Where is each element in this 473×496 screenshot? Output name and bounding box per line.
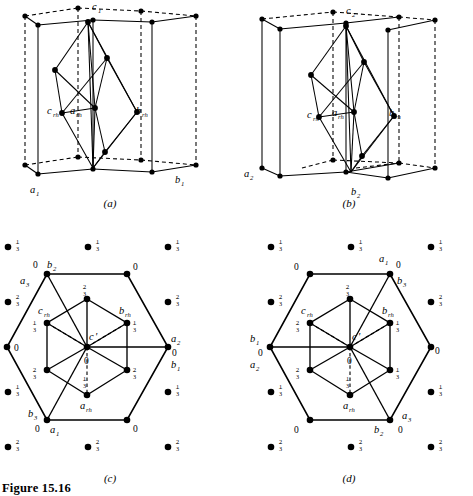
label-d-b1-sub: 1 [256,339,259,346]
label-c2-sub: 2 [352,11,356,18]
frac-d-5: 1–3 [278,383,283,397]
height-c-right: 0 [172,348,177,358]
inner-height-d-ll: 2–3 [295,366,300,380]
label-c-a2-base: a [171,333,176,344]
label-c-a3-sub: 3 [25,281,30,288]
label-d-a3-base: a [402,410,407,421]
inner-height-c-ul: 1–3 [32,319,37,333]
label-brh-base-a: b [136,105,141,116]
vertex-dots-a [22,5,198,176]
inner-height-d-top: 2–3 [345,283,350,297]
label-b2-base: b [351,186,356,197]
label-arh-base-a: a [70,105,75,116]
label-a1-sub: 1 [36,190,39,197]
label-d-b2-sub: 2 [380,430,384,437]
label-c-crh-sub: rh [44,311,50,318]
label-c1-base: c [92,1,97,12]
hidden-prism-edges-a [25,8,196,165]
inner-hexagon-d [270,274,390,420]
label-b1-sub: 1 [181,180,184,187]
panel-d-projection-reverse: 1–3 1–3 1–3 2–3 2–3 1–3 1–3 2–3 2–3 2–3 … [236,232,473,482]
label-d-b1-base: b [250,333,255,344]
label-c2-base: c [346,5,351,16]
label-c-a2-sub: 2 [177,339,181,346]
frac-c-6: 1–3 [175,383,180,397]
label-a2-sub: 2 [250,174,254,181]
rhombohedron-edges-b [311,26,394,172]
height-d-bl: 0 [294,425,299,435]
label-brh-sub-b: rh [395,113,401,120]
figure-caption: Figure 15.16 [2,481,71,496]
panel-b-drawing: c 2 a 2 b 2 a rh b rh c rh [236,0,473,212]
label-c1-sub: 1 [98,7,101,14]
inner-height-c-top: 2–3 [82,283,87,297]
label-brh-base-b: b [389,107,394,118]
panel-c-drawing: 1–3 1–3 1–3 2–3 2–3 1–3 1–3 2–3 2–3 2–3 … [0,232,236,482]
frac-c-0: 1–3 [15,238,20,252]
inner-height-c-bottom: 1–3 [82,375,87,389]
label-d-b3-base: b [397,275,402,286]
label-crh-base-b: c [307,109,312,120]
label-d-b2-base: b [374,424,379,435]
frac-c-2: 1–3 [175,238,180,252]
label-d-crh-base: c [301,305,306,316]
label-c-b1-sub: 1 [177,365,180,372]
label-d-a2-sub: 2 [256,365,260,372]
inner-hexagon-c [47,274,168,420]
label-c-a3-base: a [20,275,25,286]
label-d-a3-sub: 3 [407,416,412,423]
panel-a-drawing: c 1 a 1 b 1 a rh b rh c rh [0,0,236,212]
label-c-brh-base: b [119,305,124,316]
label-c-a1-base: a [50,424,55,435]
height-d-right: 0 [435,346,440,356]
frac-d-2: 1–3 [438,238,443,252]
panel-a-hexagonal-rhombohedral-obverse: c 1 a 1 b 1 a rh b rh c rh (a) [0,0,236,212]
label-d-brh-sub: rh [388,311,394,318]
inner-height-c-lr: 2–3 [132,366,137,380]
height-c-b2: 0 [33,260,38,270]
label-c-b3-base: b [28,408,33,419]
label-c-arh-base: a [80,400,85,411]
height-d-a3: 0 [398,425,403,435]
label-d-cprime: c [352,331,357,342]
label-b1-base: b [175,174,180,185]
label-c-a1-sub: 1 [56,430,59,437]
height-c-left: 0 [14,343,19,353]
label-d-arh-sub: rh [349,406,355,413]
label-a2-base: a [244,168,249,179]
label-c-b1-base: b [171,359,176,370]
label-crh-sub-b: rh [313,115,319,122]
inner-height-c-ll: 2–3 [32,366,37,380]
height-d-left: 0 [258,348,263,358]
frac-d-7: 2–3 [278,438,283,452]
frac-c-3: 2–3 [15,293,20,307]
frac-d-8: 2–3 [358,438,363,452]
frac-d-1: 1–3 [358,238,363,252]
label-c-b3-sub: 3 [33,414,38,421]
frac-d-4: 2–3 [438,293,443,307]
inner-height-d-lr: 1–3 [395,366,400,380]
panel-d-label: (d) [334,472,364,484]
height-c-tr: 0 [133,262,138,272]
label-arh-sub-b: rh [338,113,344,120]
height-c-b3: 0 [35,424,40,434]
label-crh-base-a: c [47,105,52,116]
frac-d-3: 2–3 [278,293,283,307]
label-arh-base-b: a [332,107,337,118]
frac-d-0: 1–3 [278,238,283,252]
label-c-arh-sub: rh [86,406,92,413]
panel-d-drawing: 1–3 1–3 1–3 2–3 2–3 1–3 1–3 2–3 2–3 2–3 … [236,232,473,482]
panel-b-label: (b) [334,197,364,209]
frac-d-6: 1–3 [438,383,443,397]
inner-height-d-bottom: 1–3 [345,375,350,389]
height-d-tl: 0 [294,262,299,272]
label-c-brh-sub: rh [125,311,131,318]
label-d-a2-base: a [250,359,255,370]
label-d-crh-sub: rh [307,311,313,318]
inner-height-c-ur: 1–3 [132,319,137,333]
inner-height-d-ur: 1–3 [395,319,400,333]
label-c-b2-sub: 2 [53,265,57,272]
label-c-crh-base: c [38,305,43,316]
panel-c-label: (c) [95,472,125,484]
